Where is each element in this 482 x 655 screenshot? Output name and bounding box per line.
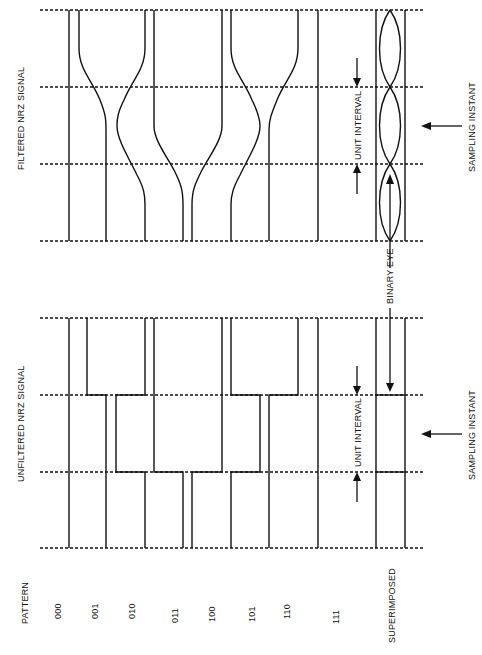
binary-eye-label: BINARY EYE: [385, 248, 395, 304]
filtered-panel-title: FILTERED NRZ SIGNAL: [16, 67, 26, 170]
filtered-sampling-instant-marker: SAMPLING INSTANT: [421, 82, 477, 172]
pattern-labels: PATTERN 000 001 010 011 100 101 110 111 …: [20, 568, 397, 643]
filtered-unit-interval-marker: UNIT INTERVAL: [353, 58, 363, 194]
filtered-trace-100: [192, 10, 222, 241]
filtered-trace-001: [79, 10, 106, 241]
pattern-header: PATTERN: [20, 582, 30, 624]
unfiltered-sampling-instant-marker: SAMPLING INSTANT: [421, 390, 477, 480]
unfiltered-unit-interval-marker: UNIT INTERVAL: [353, 366, 363, 502]
filtered-sampling-instant-label: SAMPLING INSTANT: [467, 82, 477, 172]
filtered-trace-110: [269, 10, 298, 241]
unfiltered-unit-interval-label: UNIT INTERVAL: [353, 398, 363, 467]
unfiltered-trace-001: [87, 318, 106, 548]
unfiltered-panel: UNIT INTERVAL SAMPLING INSTANT UNFILTERE…: [16, 308, 477, 548]
filtered-panel: UNIT INTERVAL SAMPLING INSTANT FILTERED …: [16, 10, 477, 268]
pattern-label-100: 100: [207, 606, 217, 622]
nrz-eye-diagram: UNIT INTERVAL SAMPLING INSTANT FILTERED …: [0, 0, 482, 655]
pattern-label-101: 101: [247, 606, 257, 622]
unfiltered-panel-title: UNFILTERED NRZ SIGNAL: [16, 365, 26, 482]
filtered-unit-interval-label: UNIT INTERVAL: [353, 91, 363, 160]
filtered-trace-010: [117, 10, 145, 241]
unfiltered-trace-100: [192, 318, 222, 548]
unfiltered-sampling-instant-label: SAMPLING INSTANT: [467, 390, 477, 480]
pattern-label-111: 111: [331, 610, 341, 624]
filtered-trace-101: [231, 10, 260, 241]
pattern-label-110: 110: [282, 604, 292, 619]
unfiltered-trace-011: [154, 318, 183, 548]
unfiltered-trace-101: [231, 318, 260, 548]
pattern-label-000: 000: [53, 603, 63, 619]
binary-eye-arrow-down: [386, 308, 394, 392]
unfiltered-trace-110: [269, 318, 298, 548]
pattern-label-001: 001: [90, 603, 100, 619]
pattern-label-011: 011: [170, 608, 180, 623]
superimposed-label: SUPERIMPOSED: [387, 568, 397, 643]
filtered-trace-011: [154, 10, 183, 241]
unfiltered-trace-010: [116, 318, 145, 548]
pattern-label-010: 010: [127, 603, 137, 619]
